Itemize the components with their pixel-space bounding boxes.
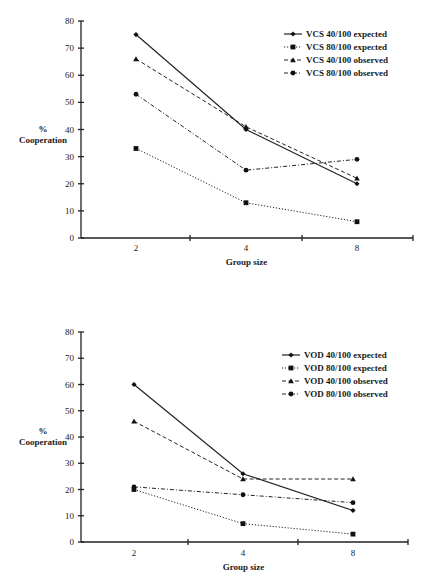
legend-item: VOD 40/100 expected [282, 350, 387, 360]
y-axis-title: % [39, 426, 48, 436]
data-point [354, 181, 359, 186]
y-tick-label: 40 [65, 125, 75, 135]
data-point [355, 157, 360, 162]
series-square [134, 146, 360, 224]
y-tick-label: 80 [65, 327, 75, 337]
x-tick-label: 2 [132, 548, 137, 558]
data-point [241, 521, 246, 526]
y-tick-label: 50 [65, 406, 75, 416]
y-tick-label: 20 [65, 179, 75, 189]
legend-item: VOD 40/100 observed [282, 376, 388, 386]
y-tick-label: 60 [65, 70, 75, 80]
data-point [133, 56, 139, 61]
legend-label: VOD 80/100 expected [304, 363, 387, 373]
data-point [134, 92, 139, 97]
x-tick-label: 2 [134, 243, 139, 253]
series-line [136, 148, 357, 221]
x-tick-label: 4 [244, 243, 249, 253]
legend-item: VCS 80/100 observed [284, 68, 388, 78]
y-axis-title: Cooperation [19, 437, 67, 447]
legend-item: VOD 80/100 observed [282, 389, 388, 399]
legend-label: VOD 80/100 observed [304, 389, 388, 399]
y-axis-title: % [39, 124, 48, 134]
legend-marker [288, 352, 293, 357]
legend-marker [289, 392, 294, 397]
legend-label: VCS 40/100 observed [306, 55, 388, 65]
legend-label: VOD 40/100 observed [304, 376, 388, 386]
data-point [355, 219, 360, 224]
data-point [354, 176, 360, 181]
chart-panel-1: 01020304050607080248Group size%Cooperati… [19, 16, 413, 267]
x-tick-label: 4 [241, 548, 246, 558]
data-point [244, 168, 249, 173]
legend-marker [289, 366, 294, 371]
x-axis-title: Group size [226, 257, 268, 267]
y-tick-label: 20 [65, 485, 75, 495]
data-point [350, 508, 355, 513]
x-axis-title: Group size [223, 562, 265, 572]
series-circle [132, 484, 356, 505]
y-tick-label: 50 [65, 97, 75, 107]
y-tick-label: 30 [65, 458, 75, 468]
legend-label: VCS 80/100 observed [306, 68, 388, 78]
chart-figure: 01020304050607080248Group size%Cooperati… [0, 0, 432, 581]
legend-marker [291, 45, 296, 50]
legend-label: VCS 40/100 expected [306, 29, 387, 39]
data-point [134, 146, 139, 151]
legend-item: VCS 80/100 expected [284, 42, 387, 52]
y-tick-label: 70 [65, 43, 75, 53]
y-tick-label: 60 [65, 380, 75, 390]
legend-item: VOD 80/100 expected [282, 363, 387, 373]
data-point [243, 124, 249, 129]
legend-label: VOD 40/100 expected [304, 350, 387, 360]
y-tick-label: 0 [70, 537, 75, 547]
series-circle [134, 92, 360, 173]
y-tick-label: 80 [65, 16, 75, 26]
data-point [132, 484, 137, 489]
y-tick-label: 0 [70, 233, 75, 243]
series-line [136, 94, 357, 170]
legend-label: VCS 80/100 expected [306, 42, 387, 52]
data-point [244, 200, 249, 205]
y-tick-label: 70 [65, 353, 75, 363]
legend-marker [290, 31, 295, 36]
x-tick-label: 8 [355, 243, 360, 253]
chart-panel-2: 01020304050607080248Group size%Cooperati… [19, 327, 408, 572]
series-line [134, 421, 353, 479]
y-tick-label: 10 [65, 511, 75, 521]
y-axis-title: Cooperation [19, 135, 67, 145]
x-tick-label: 8 [351, 548, 356, 558]
y-tick-label: 30 [65, 152, 75, 162]
data-point [351, 532, 356, 537]
data-point [351, 500, 356, 505]
series-line [134, 385, 353, 511]
legend-marker [291, 71, 296, 76]
y-tick-label: 10 [65, 206, 75, 216]
legend-item: VCS 40/100 observed [284, 55, 388, 65]
legend-item: VCS 40/100 expected [284, 29, 387, 39]
data-point [241, 492, 246, 497]
data-point [131, 418, 137, 423]
